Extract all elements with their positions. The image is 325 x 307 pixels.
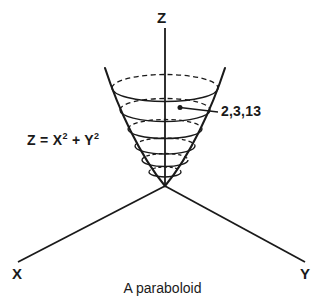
annotated-point-label: 2,3,13	[221, 104, 261, 118]
x-axis-label: X	[12, 266, 22, 281]
figure-caption: A paraboloid	[0, 281, 325, 295]
annotation-leader-line	[180, 108, 218, 113]
z-axis-label: Z	[157, 10, 166, 25]
equation-equals: =	[40, 132, 48, 148]
equation-term2-base: Y	[84, 132, 94, 148]
equation-lhs: Z	[27, 132, 36, 148]
y-axis	[165, 186, 305, 262]
equation-term1-exponent: 2	[62, 131, 67, 141]
paraboloid-diagram	[0, 0, 325, 307]
x-axis	[18, 186, 165, 262]
y-axis-label: Y	[300, 266, 310, 281]
equation-term1-base: X	[53, 132, 63, 148]
surface-equation: Z = X2 + Y2	[27, 133, 99, 147]
equation-plus: +	[72, 132, 80, 148]
equation-term2-exponent: 2	[94, 131, 99, 141]
